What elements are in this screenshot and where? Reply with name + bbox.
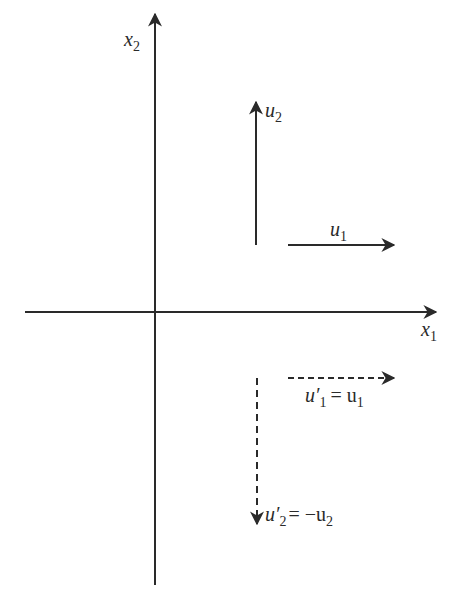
x1-axis-label: x1: [420, 318, 437, 344]
u1-prime-label: u′1= u1: [305, 384, 364, 410]
reflection-diagram: x2 x1 u2 u1 u′1= u1 u′2= −u2: [0, 0, 457, 603]
u1-label: u1: [330, 218, 347, 244]
u2-label: u2: [265, 99, 282, 125]
x2-axis-label: x2: [123, 28, 140, 54]
u2-prime-label: u′2= −u2: [265, 503, 333, 529]
